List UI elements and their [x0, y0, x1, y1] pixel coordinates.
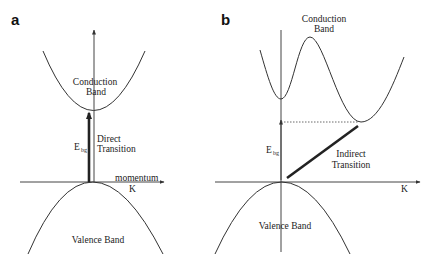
gap-subscript-b: bg [273, 150, 279, 156]
indirect-transition-label: Indirect [336, 149, 366, 159]
direct-transition-label-2: Transition [97, 144, 136, 154]
conduction-band-curve-b [260, 37, 404, 122]
gap-label-a: E [74, 142, 80, 152]
direct-transition-label: Direct [97, 134, 121, 144]
conduction-band-label-a-2: Band [86, 87, 106, 97]
conduction-band-label-b: Conduction [302, 14, 347, 24]
k-label-b: K [401, 184, 408, 194]
valence-band-label-a: Valence Band [72, 235, 125, 245]
panel-b-letter: b [221, 11, 230, 28]
valence-band-label-b: Valence Band [259, 221, 312, 231]
panel-b: b Conduction Band E bg Indirect Transiti… [215, 11, 420, 254]
conduction-band-label-b-2: Band [314, 24, 334, 34]
panel-a: a Conduction Band E bg Direct Transition… [11, 11, 164, 254]
gap-label-b: E [266, 145, 272, 155]
panel-a-letter: a [11, 11, 20, 28]
conduction-band-label-a: Conduction [73, 77, 118, 87]
indirect-transition-label-2: Transition [332, 160, 371, 170]
momentum-label: momentum [115, 173, 159, 183]
gap-subscript-a: bg [81, 147, 87, 153]
valence-band-curve-b [215, 182, 350, 254]
band-structure-figure: a Conduction Band E bg Direct Transition… [0, 0, 430, 269]
k-label-a: K [129, 184, 136, 194]
